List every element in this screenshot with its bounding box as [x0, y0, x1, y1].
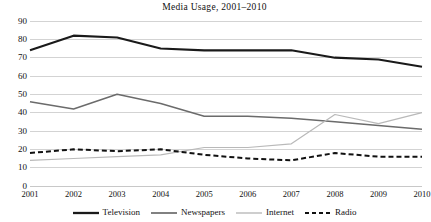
legend-swatch-television-icon — [73, 209, 99, 217]
x-axis-tick-label: 2006 — [239, 189, 256, 200]
x-axis-tick-label: 2009 — [370, 189, 387, 200]
data-series-layer — [30, 21, 422, 186]
series-line-newspapers — [30, 94, 422, 129]
legend-label: Newspapers — [181, 208, 225, 217]
legend-label: Radio — [335, 208, 357, 217]
legend-swatch-newspapers-icon — [151, 209, 177, 217]
legend-item-internet[interactable]: Internet — [236, 208, 294, 217]
legend-item-radio[interactable]: Radio — [305, 208, 357, 217]
x-axis-tick-label: 2008 — [326, 189, 343, 200]
x-axis-tick-label: 2007 — [283, 189, 300, 200]
y-axis-tick-label: 40 — [0, 108, 27, 117]
y-axis-tick-label: 60 — [0, 72, 27, 81]
x-axis-tick-label: 2005 — [196, 189, 213, 200]
plot-area — [30, 21, 422, 186]
series-line-radio — [30, 149, 422, 160]
legend-swatch-radio-icon — [305, 209, 331, 217]
x-axis-tick-label: 2010 — [414, 189, 431, 200]
legend-item-television[interactable]: Television — [73, 208, 140, 217]
legend-swatch-internet-icon — [236, 209, 262, 217]
series-line-internet — [30, 113, 422, 161]
chart-legend: TelevisionNewspapersInternetRadio — [0, 205, 429, 220]
x-axis: 2001200220032004200520062007200820092010 — [30, 189, 422, 202]
y-axis-tick-label: 70 — [0, 53, 27, 62]
y-axis-tick-label: 10 — [0, 163, 27, 172]
chart-title: Media Usage, 2001–2010 — [0, 2, 429, 12]
y-axis-tick-label: 30 — [0, 127, 27, 136]
series-line-television — [30, 36, 422, 67]
x-axis-tick-label: 2002 — [65, 189, 82, 200]
legend-item-newspapers[interactable]: Newspapers — [151, 208, 225, 217]
legend-label: Television — [103, 208, 140, 217]
x-axis-tick-label: 2001 — [22, 189, 39, 200]
y-axis-tick-label: 80 — [0, 35, 27, 44]
y-axis-tick-label: 50 — [0, 90, 27, 99]
y-axis: 9080706050403020100 — [0, 21, 27, 186]
x-axis-tick-label: 2004 — [152, 189, 169, 200]
y-axis-tick-label: 20 — [0, 145, 27, 154]
x-axis-tick-label: 2003 — [109, 189, 126, 200]
legend-label: Internet — [266, 208, 294, 217]
y-axis-tick-label: 90 — [0, 17, 27, 26]
